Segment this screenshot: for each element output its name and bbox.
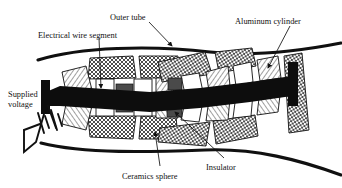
label-supplied-voltage-line1: Supplied (8, 90, 39, 99)
label-outer-tube: Outer tube (110, 13, 146, 22)
insulator (168, 78, 182, 90)
aluminum-cylinder (88, 116, 136, 139)
label-ceramics-sphere: Ceramics sphere (122, 172, 178, 181)
circuit-wire-upper (24, 124, 40, 130)
cross-section-diagram: Outer tube Electrical wire segment Alumi… (0, 0, 342, 188)
label-supplied-voltage-line2: voltage (8, 100, 33, 109)
outer-tube-bottom-wall (41, 143, 341, 175)
ceramics-sphere (257, 56, 281, 81)
aluminum-cylinder (88, 56, 136, 79)
ceramics-sphere (62, 104, 92, 130)
label-electrical-wire-segment: Electrical wire segment (38, 31, 118, 40)
figure-canvas: Outer tube Electrical wire segment Alumi… (0, 0, 342, 188)
leader-outer-tube (149, 22, 172, 46)
battery-plate-long-2 (51, 110, 57, 130)
label-insulator: Insulator (206, 163, 236, 172)
label-aluminum-cylinder: Aluminum cylinder (235, 17, 301, 26)
battery-plate-short-2 (58, 114, 62, 126)
wire-right-terminal (288, 62, 298, 106)
battery-plate-short-1 (45, 116, 49, 128)
